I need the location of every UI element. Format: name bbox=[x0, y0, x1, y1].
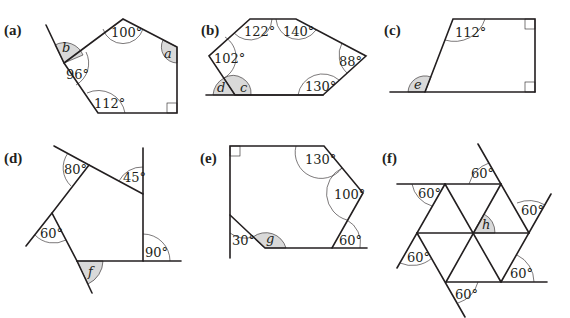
angle-label: 30° bbox=[232, 233, 255, 248]
angle-label: 45° bbox=[123, 170, 146, 185]
angle-label: 140° bbox=[283, 24, 314, 39]
unknown-label: e bbox=[414, 77, 422, 92]
part-label-c: (c) bbox=[384, 22, 401, 39]
angle-label: 60° bbox=[418, 186, 441, 201]
angle-label: 60° bbox=[339, 233, 362, 248]
diagram-b: (b) 122° 140° 102° 88° 130° c d bbox=[201, 19, 366, 95]
right-angle-marker bbox=[525, 19, 535, 29]
lattice-line bbox=[417, 233, 465, 317]
part-label-b: (b) bbox=[201, 22, 219, 39]
angle-label: 130° bbox=[305, 152, 336, 167]
diagram-f: (f) 60° 60° 60° 60° 60° 60° h bbox=[382, 144, 551, 317]
angle-label: 88° bbox=[339, 54, 362, 69]
angle-label: 102° bbox=[214, 51, 245, 66]
part-label-e: (e) bbox=[200, 150, 217, 167]
part-label-d: (d) bbox=[4, 150, 22, 167]
diagram-d: (d) 80° 45° 60° 90° f bbox=[4, 146, 181, 293]
diagram-e: (e) 130° 100° 30° 60° g bbox=[200, 146, 367, 258]
angle-label: 60° bbox=[455, 287, 478, 302]
part-label-f: (f) bbox=[382, 150, 397, 167]
diagram-a: (a) 100° 96° 112° a b bbox=[4, 19, 177, 113]
angle-label: 112° bbox=[94, 96, 125, 111]
angle-label: 122° bbox=[244, 24, 275, 39]
angle-label: 100° bbox=[334, 187, 365, 202]
angle-label: 60° bbox=[510, 266, 533, 281]
diagram-c: (c) 112° e bbox=[384, 19, 535, 92]
angle-exercise-figure: (a) 100° 96° 112° a b (b) 122° 140° bbox=[0, 0, 570, 318]
right-angle-marker bbox=[525, 82, 535, 92]
unknown-label: h bbox=[482, 217, 490, 232]
angle-label: 96° bbox=[66, 67, 89, 82]
right-angle-marker bbox=[230, 146, 240, 156]
angle-label: 130° bbox=[305, 79, 336, 94]
unknown-label: c bbox=[240, 80, 248, 95]
unknown-label: b bbox=[62, 40, 70, 55]
part-label-a: (a) bbox=[4, 22, 22, 39]
angle-label: 60° bbox=[40, 226, 63, 241]
angle-label: 60° bbox=[407, 250, 430, 265]
unknown-label: d bbox=[217, 80, 225, 95]
angle-label: 60° bbox=[521, 203, 544, 218]
angle-label: 112° bbox=[455, 25, 486, 40]
right-angle-marker bbox=[167, 103, 177, 113]
unknown-label: g bbox=[266, 231, 274, 246]
angle-label: 100° bbox=[111, 25, 142, 40]
angle-label: 90° bbox=[145, 245, 168, 260]
angle-label: 60° bbox=[471, 166, 494, 181]
angle-label: 80° bbox=[64, 162, 87, 177]
unknown-label: a bbox=[164, 46, 172, 61]
